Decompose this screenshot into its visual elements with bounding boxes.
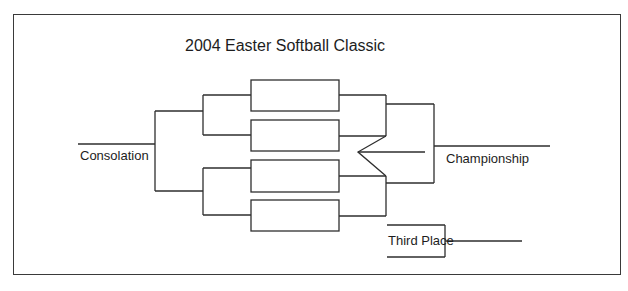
game-box-3[interactable]: [251, 160, 339, 192]
game-box-4[interactable]: [251, 200, 339, 231]
bracket-sheet: 2004 Easter Softball Classic: [0, 0, 628, 291]
championship-label: Championship: [446, 152, 529, 165]
game-box-1[interactable]: [251, 80, 339, 111]
bracket-lines: [0, 0, 628, 291]
game-box-2[interactable]: [251, 120, 339, 151]
consolation-label: Consolation: [80, 149, 149, 162]
third-place-label: Third Place: [388, 234, 454, 247]
crossover-line: [358, 136, 386, 176]
